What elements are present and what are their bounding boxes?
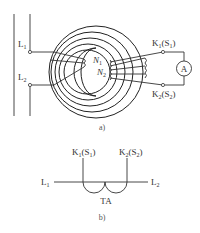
label-l2: L2 [18,72,27,83]
terminal-k1 [161,50,164,53]
label-l2-b: L2 [151,177,160,188]
label-k2-s2: K2(S2) [152,89,176,100]
terminal-l1 [28,50,31,53]
ammeter-icon: A [177,61,192,76]
figure-b: K1(S1) K2(S2) L1 L2 TA b) [41,147,160,222]
caption-b: b) [99,213,106,222]
label-l1-b: L1 [41,177,50,188]
current-transformer-diagram: L1 L2 [0,0,200,233]
label-ta: TA [100,196,112,206]
caption-a: a) [99,123,106,132]
terminal-l2 [28,83,31,86]
secondary-winding [110,52,163,85]
label-k1-s1-b: K1(S1) [72,147,96,158]
svg-text:A: A [181,64,188,74]
toroidal-core [49,26,143,118]
label-k1-s1: K1(S1) [152,38,176,49]
label-k2-s2-b: K2(S2) [119,147,143,158]
ta-winding-icon [83,182,127,193]
label-n1: N1 [92,55,102,66]
figure-a: L1 L2 [14,14,192,132]
label-l1: L1 [18,39,27,50]
label-n2: N2 [96,67,106,78]
terminal-k2 [161,83,164,86]
